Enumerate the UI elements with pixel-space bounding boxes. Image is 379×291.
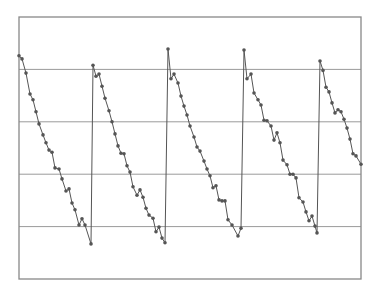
data-point <box>252 91 256 95</box>
data-point <box>100 84 104 88</box>
data-point <box>103 96 107 100</box>
data-point <box>122 152 126 156</box>
data-point <box>97 72 101 76</box>
data-point <box>151 216 155 220</box>
data-point <box>318 59 322 63</box>
data-point <box>107 109 111 113</box>
data-point <box>138 188 142 192</box>
data-point <box>291 172 295 176</box>
data-point <box>141 196 145 200</box>
data-point <box>77 223 81 227</box>
data-point <box>265 119 269 123</box>
data-point <box>275 131 279 135</box>
data-point <box>211 186 215 190</box>
data-point <box>281 158 285 162</box>
data-point <box>239 226 243 230</box>
data-point <box>157 225 161 229</box>
data-point <box>47 148 51 152</box>
data-point <box>192 135 196 139</box>
data-point <box>83 223 87 227</box>
data-point <box>147 213 151 217</box>
data-point <box>41 133 45 137</box>
data-point <box>359 162 363 166</box>
data-point <box>125 164 129 168</box>
data-point <box>20 57 24 61</box>
data-point <box>236 234 240 238</box>
data-point <box>44 141 48 145</box>
data-point <box>70 201 74 205</box>
data-point <box>223 199 227 203</box>
data-point <box>185 113 189 117</box>
data-point <box>144 207 148 211</box>
data-point <box>202 159 206 163</box>
data-point <box>307 219 311 223</box>
data-point <box>131 185 135 189</box>
data-point <box>256 98 260 102</box>
data-point <box>297 196 301 200</box>
data-point <box>182 104 186 108</box>
data-point <box>330 101 334 105</box>
data-point <box>242 48 246 52</box>
data-point <box>262 118 266 122</box>
data-point <box>50 150 54 154</box>
data-point <box>64 189 68 193</box>
data-point <box>17 54 21 58</box>
data-point <box>179 94 183 98</box>
data-point <box>172 72 176 76</box>
data-point <box>342 117 346 121</box>
data-point <box>128 170 132 174</box>
data-point <box>73 208 77 212</box>
data-point <box>163 241 167 245</box>
data-point <box>188 124 192 128</box>
data-point <box>214 184 218 188</box>
data-point <box>339 110 343 114</box>
data-point <box>169 77 173 81</box>
data-point <box>110 120 114 124</box>
data-point <box>80 217 84 221</box>
data-point <box>249 72 253 76</box>
data-point <box>327 90 331 94</box>
data-point <box>34 110 38 114</box>
data-point <box>354 154 358 158</box>
data-point <box>304 210 308 214</box>
data-point <box>348 137 352 141</box>
data-point <box>333 111 337 115</box>
chart-background <box>0 0 379 291</box>
data-point <box>310 214 314 218</box>
data-point <box>31 98 35 102</box>
data-point <box>294 176 298 180</box>
data-point <box>259 103 263 107</box>
data-point <box>345 126 349 130</box>
data-point <box>336 108 340 112</box>
data-point <box>94 74 98 78</box>
data-point <box>195 145 199 149</box>
data-point <box>208 174 212 178</box>
data-point <box>278 141 282 145</box>
data-point <box>37 122 41 126</box>
data-point <box>53 166 57 170</box>
data-point <box>89 242 93 246</box>
data-point <box>321 69 325 73</box>
data-point <box>205 167 209 171</box>
data-point <box>154 230 158 234</box>
data-point <box>301 200 305 204</box>
chart-canvas <box>0 0 379 291</box>
data-point <box>28 92 32 96</box>
data-point <box>57 167 61 171</box>
data-point <box>24 71 28 75</box>
data-point <box>160 236 164 240</box>
data-point <box>269 124 273 128</box>
data-point <box>91 63 95 67</box>
data-point <box>67 187 71 191</box>
data-point <box>313 224 317 228</box>
data-point <box>230 223 234 227</box>
data-point <box>135 193 139 197</box>
data-point <box>285 163 289 167</box>
data-point <box>119 151 123 155</box>
data-point <box>176 81 180 85</box>
data-point <box>60 177 64 181</box>
data-point <box>166 47 170 51</box>
data-point <box>113 132 117 136</box>
data-point <box>272 138 276 142</box>
data-point <box>198 149 202 153</box>
